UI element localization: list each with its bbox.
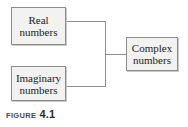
node-complex-numbers-line1: Complex [132,42,172,54]
node-real-numbers-line2: numbers [20,26,58,38]
node-complex-numbers: Complex numbers [126,37,178,71]
figure-caption: FIGURE 4.1 [6,108,55,120]
connector-real-to-spine [66,21,106,22]
connector-imaginary-to-spine [66,86,106,87]
node-real-numbers-line1: Real [28,14,48,26]
node-complex-numbers-line2: numbers [133,54,171,66]
node-real-numbers: Real numbers [11,7,66,45]
node-imaginary-numbers-line2: numbers [20,84,58,96]
number-systems-diagram: Real numbers Imaginary numbers Complex n… [0,0,188,104]
node-imaginary-numbers-line1: Imaginary [16,72,61,84]
figure-container: Real numbers Imaginary numbers Complex n… [0,0,188,127]
node-imaginary-numbers: Imaginary numbers [11,66,66,101]
figure-caption-number: 4.1 [39,108,55,120]
figure-caption-label: FIGURE [6,111,36,120]
connector-spine-to-complex [105,54,126,55]
